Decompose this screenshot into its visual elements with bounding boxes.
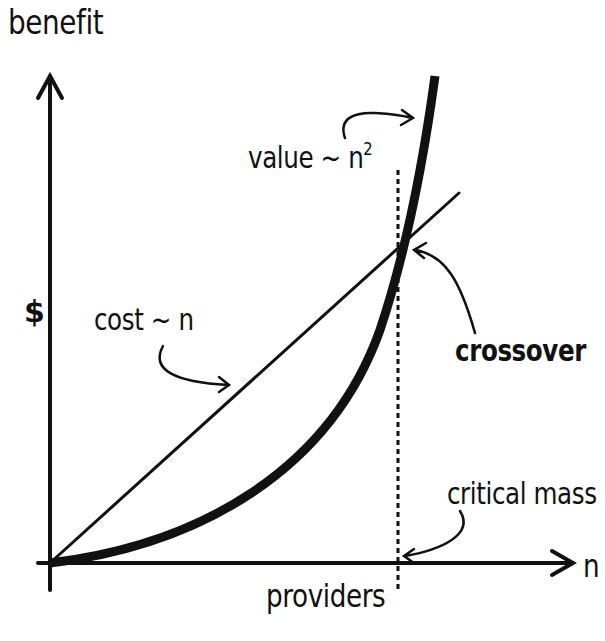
cost-arrow-icon (160, 346, 229, 392)
y-unit-label: $ (24, 294, 44, 329)
value-label-exponent: 2 (363, 138, 372, 159)
x-axis-variable-label: n (583, 547, 599, 585)
critical-mass-arrow-icon (404, 511, 464, 563)
value-arrow-icon (343, 110, 413, 138)
value-label: value ~ n2 (248, 140, 372, 175)
value-label-text: value ~ n (248, 140, 363, 175)
cost-label: cost ~ n (94, 302, 194, 337)
chart-plot (0, 0, 605, 641)
critical-mass-label: critical mass (447, 476, 597, 511)
x-axis-label: providers (266, 577, 385, 615)
crossover-arrow-icon (414, 243, 475, 333)
y-axis (38, 76, 62, 590)
diagram-canvas: benefit $ cost ~ n value ~ n2 crossover … (0, 0, 605, 641)
crossover-label: crossover (455, 333, 586, 368)
y-axis-label: benefit (8, 2, 103, 42)
